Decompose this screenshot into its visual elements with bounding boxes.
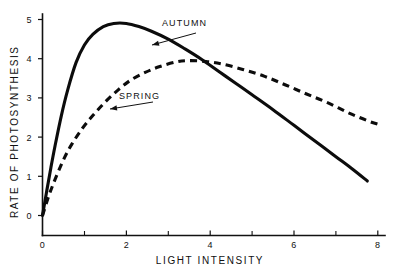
series-label-spring: SPRING [119, 91, 160, 101]
y-tick-label-5: 5 [27, 15, 32, 25]
y-tick-label-0: 0 [27, 211, 32, 221]
annotation-spring: SPRING [110, 91, 160, 110]
y-tick-label-2: 2 [27, 133, 32, 143]
y-tick-label-3: 3 [27, 93, 32, 103]
x-axis: 0 2 4 6 8 LIGHT INTENSITY [40, 231, 385, 267]
x-tick-label-2: 2 [124, 240, 129, 250]
y-axis: 5 4 3 2 1 0 RATE OF PHOTOSYNTHESIS [9, 14, 43, 236]
x-tick-label-8: 8 [375, 240, 380, 250]
x-tick-label-0: 0 [40, 240, 45, 250]
annotation-autumn: AUTUMN [152, 18, 207, 46]
series-label-autumn: AUTUMN [162, 18, 207, 28]
y-axis-title: RATE OF PHOTOSYNTHESIS [9, 45, 20, 218]
arrow-head-autumn [152, 41, 159, 46]
x-tick-label-4: 4 [207, 240, 212, 250]
chart-plot-area: 5 4 3 2 1 0 RATE OF PHOTOSYNTHESIS 0 2 4… [0, 0, 401, 276]
photosynthesis-light-response-chart: 5 4 3 2 1 0 RATE OF PHOTOSYNTHESIS 0 2 4… [0, 0, 401, 276]
series-line-spring [43, 61, 382, 216]
x-tick-label-6: 6 [291, 240, 296, 250]
y-tick-label-4: 4 [27, 54, 32, 64]
arrow-head-spring [110, 105, 117, 110]
x-axis-title: LIGHT INTENSITY [156, 255, 264, 266]
y-tick-label-1: 1 [27, 172, 32, 182]
